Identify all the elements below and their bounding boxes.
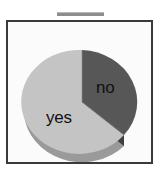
pie-chart-svg	[8, 22, 151, 162]
top-horizontal-rule	[57, 12, 104, 16]
pie-slice-label-yes: yes	[46, 109, 72, 126]
pie-chart-plot-area: no yes	[8, 22, 151, 162]
chart-figure-frame: no yes	[6, 20, 153, 164]
pie-slice-label-no: no	[96, 79, 115, 96]
